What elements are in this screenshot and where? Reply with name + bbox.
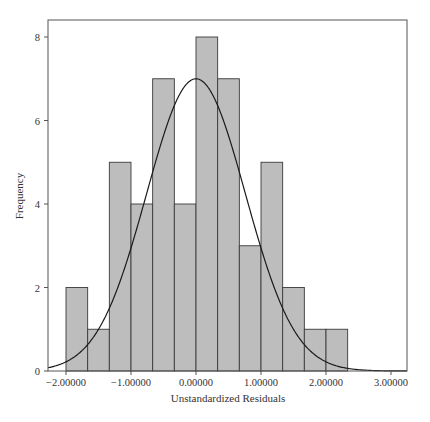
histogram-bar	[66, 288, 88, 372]
histogram-bar	[218, 79, 240, 371]
x-tick-label: 3.00000	[374, 377, 408, 388]
x-axis-label: Unstandardized Residuals	[171, 392, 286, 404]
histogram-bar	[109, 162, 131, 371]
histogram-bar	[131, 204, 153, 371]
x-tick-label: 1.00000	[244, 377, 278, 388]
y-tick-label: 6	[35, 116, 40, 127]
histogram-bar	[326, 329, 348, 371]
histogram-bar	[304, 329, 326, 371]
y-tick-label: 4	[35, 199, 41, 210]
x-axis-ticks: −2.00000−1.000000.000001.000002.000003.0…	[46, 371, 408, 388]
histogram-bar	[174, 204, 196, 371]
histogram-bar	[261, 162, 283, 371]
histogram-bar	[153, 79, 175, 371]
histogram-bar	[196, 37, 218, 371]
x-tick-label: 0.00000	[179, 377, 213, 388]
y-tick-label: 8	[35, 32, 40, 43]
x-tick-label: −2.00000	[46, 377, 86, 388]
histogram-bars	[66, 37, 348, 371]
histogram-chart: 02468 −2.00000−1.000000.000001.000002.00…	[0, 0, 430, 422]
y-tick-label: 0	[35, 366, 40, 377]
y-axis-ticks: 02468	[35, 32, 48, 377]
x-tick-label: −1.00000	[111, 377, 151, 388]
histogram-bar	[88, 329, 110, 371]
y-axis-label: Frequency	[13, 172, 25, 219]
histogram-bar	[239, 246, 261, 371]
x-tick-label: 2.00000	[309, 377, 343, 388]
y-tick-label: 2	[35, 283, 40, 294]
